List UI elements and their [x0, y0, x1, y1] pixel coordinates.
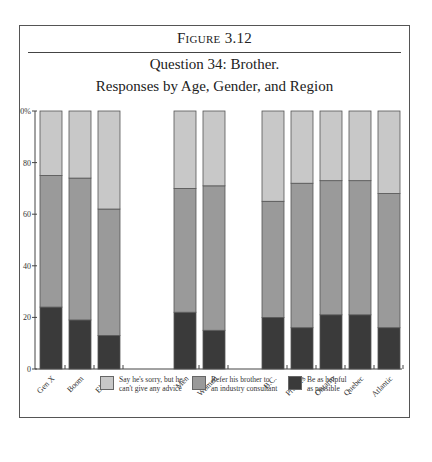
bar-segment — [203, 330, 225, 369]
legend-swatch — [192, 376, 206, 390]
bar-segment — [98, 111, 120, 209]
legend-label: Say he's sorry, but he can't give any ad… — [119, 375, 183, 393]
stacked-bar-chart: 020406080100%Gen XBoomEldersMenWomenB.C.… — [20, 26, 411, 419]
y-tick-label: 80 — [23, 159, 31, 168]
chart-legend: Say he's sorry, but he can't give any ad… — [20, 375, 411, 415]
bar-segment — [174, 312, 196, 369]
bar-segment — [262, 201, 284, 317]
bar-segment — [174, 188, 196, 312]
bar-segment — [291, 328, 313, 369]
legend-item: Say he's sorry, but he can't give any ad… — [100, 375, 183, 393]
legend-swatch — [100, 376, 114, 390]
bar-segment — [40, 307, 62, 369]
bar-segment — [320, 315, 342, 369]
bar-segment — [291, 111, 313, 183]
bar-segment — [349, 111, 371, 181]
legend-label: Be as helpful as possible — [307, 375, 347, 393]
legend-swatch — [288, 376, 302, 390]
bar-segment — [262, 111, 284, 201]
bar-segment — [40, 176, 62, 308]
bar-segment — [349, 181, 371, 315]
figure-frame: Figure 3.12 Question 34: Brother. Respon… — [19, 25, 410, 418]
bar-segment — [320, 111, 342, 181]
bar-segment — [291, 183, 313, 327]
bar-segment — [203, 186, 225, 330]
legend-item: Refer his brother to an industry consult… — [192, 375, 277, 393]
y-tick-label: 100% — [20, 107, 31, 116]
legend-label: Refer his brother to an industry consult… — [211, 375, 277, 393]
y-tick-label: 40 — [23, 262, 31, 271]
bar-segment — [69, 111, 91, 178]
bar-segment — [203, 111, 225, 186]
bar-segment — [349, 315, 371, 369]
bar-segment — [378, 328, 400, 369]
bar-segment — [98, 209, 120, 335]
bar-segment — [174, 111, 196, 188]
bar-segment — [98, 335, 120, 369]
bar-segment — [262, 317, 284, 369]
y-tick-label: 60 — [23, 210, 31, 219]
bar-segment — [40, 111, 62, 176]
bar-segment — [69, 320, 91, 369]
bar-segment — [69, 178, 91, 320]
bar-segment — [320, 181, 342, 315]
bar-segment — [378, 111, 400, 194]
legend-item: Be as helpful as possible — [288, 375, 347, 393]
y-tick-label: 0 — [27, 365, 31, 374]
bar-segment — [378, 194, 400, 328]
y-tick-label: 20 — [23, 313, 31, 322]
